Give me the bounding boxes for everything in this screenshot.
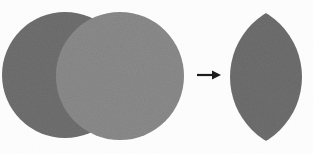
circle-intersection-diagram bbox=[0, 0, 313, 154]
paper-grain-overlay bbox=[0, 0, 313, 154]
figure-container: Two overlapping gray circles on the left… bbox=[0, 0, 313, 154]
